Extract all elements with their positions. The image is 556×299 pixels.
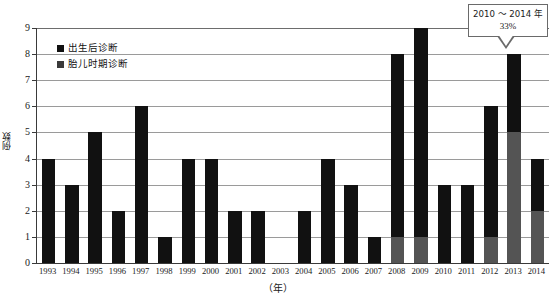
bar-segment-postnatal xyxy=(484,106,497,237)
y-tick-label: 7 xyxy=(8,75,30,85)
bar-segment-postnatal xyxy=(42,159,55,263)
y-tick-label: 2 xyxy=(8,206,30,216)
gridline xyxy=(37,132,549,133)
bar-segment-postnatal xyxy=(507,54,520,132)
bar-segment-fetal xyxy=(391,237,404,263)
bar-group xyxy=(391,54,404,263)
bar-group xyxy=(298,211,311,263)
bar-segment-fetal xyxy=(531,211,544,263)
bar-group xyxy=(158,237,171,263)
bar-segment-postnatal xyxy=(368,237,381,263)
x-tick-label: 2009 xyxy=(408,266,431,276)
legend-label: 出生后诊断 xyxy=(68,40,118,56)
callout-line-1: 2010 ～ 2014 年 xyxy=(469,8,547,20)
bar-segment-postnatal xyxy=(112,211,125,263)
legend-swatch-icon xyxy=(57,45,64,52)
legend-label: 胎儿时期诊断 xyxy=(68,56,128,72)
x-tick-label: 2006 xyxy=(339,266,362,276)
bar-segment-postnatal xyxy=(531,159,544,211)
bar-group xyxy=(484,106,497,263)
y-tick-label: 0 xyxy=(8,258,30,268)
bar-group xyxy=(321,159,334,263)
legend-item-fetal: 胎儿时期诊断 xyxy=(57,56,128,72)
bar-group xyxy=(205,159,218,263)
x-tick-label: 2005 xyxy=(315,266,338,276)
bar-segment-postnatal xyxy=(344,185,357,263)
bar-segment-postnatal xyxy=(298,211,311,263)
bar-segment-postnatal xyxy=(228,211,241,263)
bar-segment-postnatal xyxy=(438,185,451,263)
bar-group xyxy=(135,106,148,263)
x-tick-label: 2008 xyxy=(385,266,408,276)
legend-item-postnatal: 出生后诊断 xyxy=(57,40,128,56)
bar-segment-fetal xyxy=(414,237,427,263)
y-tick-label: 8 xyxy=(8,49,30,59)
bar-group xyxy=(65,185,78,263)
bar-segment-postnatal xyxy=(135,106,148,263)
bar-segment-postnatal xyxy=(158,237,171,263)
y-tick-label: 4 xyxy=(8,154,30,164)
x-tick-label: 2014 xyxy=(525,266,548,276)
annotation-callout: 2010 ～ 2014 年 33% xyxy=(468,4,548,37)
x-tick-label: 2000 xyxy=(199,266,222,276)
bar-segment-postnatal xyxy=(461,185,474,263)
x-tick-label: 1999 xyxy=(176,266,199,276)
legend-swatch-icon xyxy=(57,61,64,68)
x-tick-label: 2002 xyxy=(245,266,268,276)
bar-segment-postnatal xyxy=(414,28,427,237)
x-tick-label: 1994 xyxy=(59,266,82,276)
bar-group xyxy=(414,28,427,263)
bar-group xyxy=(531,159,544,263)
x-tick-label: 2012 xyxy=(478,266,501,276)
bar-group xyxy=(461,185,474,263)
x-tick-label: 1998 xyxy=(152,266,175,276)
x-tick-label: 1997 xyxy=(129,266,152,276)
x-tick-label: 1996 xyxy=(106,266,129,276)
bar-segment-fetal xyxy=(484,237,497,263)
gridline xyxy=(37,159,549,160)
bar-segment-postnatal xyxy=(251,211,264,263)
bar-segment-postnatal xyxy=(321,159,334,263)
bar-group xyxy=(251,211,264,263)
bar-group xyxy=(507,54,520,263)
gridline xyxy=(37,80,549,81)
bar-segment-postnatal xyxy=(391,54,404,237)
x-tick-label: 2013 xyxy=(501,266,524,276)
y-tick-label: 1 xyxy=(8,232,30,242)
x-axis-title: （年） xyxy=(0,280,556,295)
x-tick-label: 2007 xyxy=(362,266,385,276)
bar-segment-postnatal xyxy=(182,159,195,263)
y-tick-label: 3 xyxy=(8,180,30,190)
bar-group xyxy=(112,211,125,263)
bar-segment-postnatal xyxy=(88,132,101,263)
x-tick-label: 2011 xyxy=(455,266,478,276)
gridline xyxy=(37,106,549,107)
bar-group xyxy=(368,237,381,263)
x-tick-label: 2003 xyxy=(269,266,292,276)
bar-chart: 例数 0123456789 19931994199519961997199819… xyxy=(0,0,556,299)
bar-group xyxy=(438,185,451,263)
callout-line-2: 33% xyxy=(469,20,547,32)
bar-group xyxy=(42,159,55,263)
x-tick-label: 2004 xyxy=(292,266,315,276)
bar-segment-postnatal xyxy=(65,185,78,263)
legend: 出生后诊断 胎儿时期诊断 xyxy=(57,40,128,72)
x-tick-label: 2010 xyxy=(432,266,455,276)
x-tick-label: 2001 xyxy=(222,266,245,276)
y-tick-label: 5 xyxy=(8,127,30,137)
bar-segment-postnatal xyxy=(205,159,218,263)
bar-group xyxy=(88,132,101,263)
bar-group xyxy=(182,159,195,263)
y-tick-label: 6 xyxy=(8,101,30,111)
bar-group xyxy=(344,185,357,263)
bar-group xyxy=(228,211,241,263)
bar-segment-fetal xyxy=(507,132,520,263)
x-tick-label: 1993 xyxy=(36,266,59,276)
y-tick-label: 9 xyxy=(8,23,30,33)
x-tick-label: 1995 xyxy=(83,266,106,276)
